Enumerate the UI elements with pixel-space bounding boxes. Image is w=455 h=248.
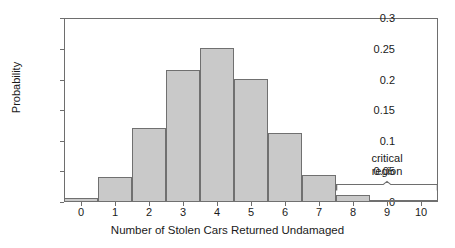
x-tick-label-6: 6	[270, 206, 300, 218]
x-tick-label-8: 8	[338, 206, 368, 218]
bar-7	[302, 175, 336, 202]
critical-region-line-2: region	[336, 165, 438, 178]
x-tick-label-4: 4	[202, 206, 232, 218]
bar-1	[98, 177, 132, 202]
critical-region-line-1: critical	[336, 152, 438, 165]
y-axis-label: Probability	[11, 48, 22, 128]
bar-2	[132, 128, 166, 202]
bar-5	[234, 79, 268, 202]
x-tick-label-10: 10	[406, 206, 436, 218]
x-tick-label-1: 1	[100, 206, 130, 218]
bar-4	[200, 48, 234, 202]
x-tick-label-5: 5	[236, 206, 266, 218]
bar-8	[336, 195, 370, 202]
histogram-figure: 0 0.05 0.1 0.15 0.2 0.25 0.3 Probability…	[0, 0, 455, 248]
critical-region-annotation: critical region	[336, 152, 438, 177]
x-tick-label-2: 2	[134, 206, 164, 218]
bar-3	[166, 70, 200, 202]
x-tick-label-0: 0	[66, 206, 96, 218]
x-tick-label-7: 7	[304, 206, 334, 218]
y-tick-mark-0	[60, 202, 64, 203]
bar-6	[268, 133, 302, 202]
x-axis-label: Number of Stolen Cars Returned Undamaged	[0, 224, 455, 237]
critical-region-brace	[336, 181, 438, 191]
x-tick-label-9: 9	[372, 206, 402, 218]
x-tick-label-3: 3	[168, 206, 198, 218]
